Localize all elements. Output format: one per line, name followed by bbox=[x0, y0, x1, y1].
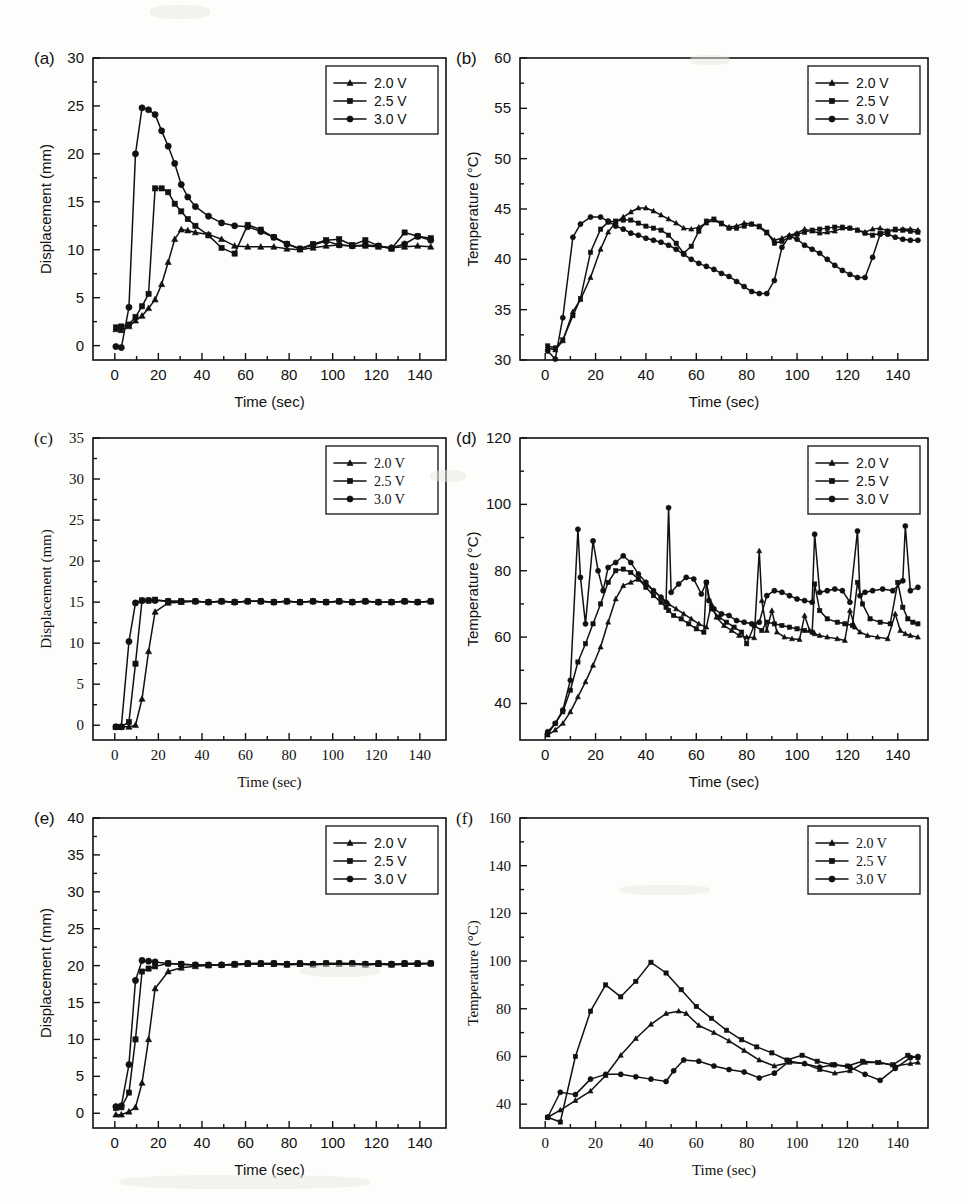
svg-text:Displacement (mm): Displacement (mm) bbox=[37, 144, 54, 274]
svg-text:2.5 V: 2.5 V bbox=[374, 853, 407, 869]
svg-text:0: 0 bbox=[77, 717, 85, 733]
svg-text:20: 20 bbox=[588, 1135, 603, 1151]
svg-text:35: 35 bbox=[67, 846, 84, 863]
svg-text:0: 0 bbox=[541, 1135, 549, 1151]
svg-text:2.0 V: 2.0 V bbox=[374, 456, 405, 471]
svg-text:15: 15 bbox=[67, 193, 84, 210]
svg-text:0: 0 bbox=[76, 1104, 84, 1121]
svg-text:2.5 V: 2.5 V bbox=[374, 93, 407, 109]
chart-panel-e: 0204060801001201400510152025303540Time (… bbox=[28, 802, 453, 1194]
svg-text:2.5 V: 2.5 V bbox=[374, 474, 405, 489]
svg-text:60: 60 bbox=[688, 746, 705, 763]
svg-text:3.0 V: 3.0 V bbox=[856, 491, 889, 507]
svg-text:Time (sec): Time (sec) bbox=[234, 1161, 304, 1178]
svg-text:40: 40 bbox=[494, 250, 511, 267]
svg-text:10: 10 bbox=[67, 241, 84, 258]
svg-text:60: 60 bbox=[237, 366, 254, 383]
series-line-25V bbox=[116, 600, 431, 727]
svg-text:40: 40 bbox=[496, 1096, 511, 1112]
svg-text:160: 160 bbox=[489, 810, 512, 826]
svg-text:Time (sec): Time (sec) bbox=[689, 393, 759, 410]
svg-text:120: 120 bbox=[836, 1135, 859, 1151]
svg-text:80: 80 bbox=[738, 366, 755, 383]
svg-text:55: 55 bbox=[494, 99, 511, 116]
svg-text:25: 25 bbox=[67, 97, 84, 114]
svg-text:20: 20 bbox=[151, 747, 166, 763]
svg-text:2.0 V: 2.0 V bbox=[856, 455, 889, 471]
svg-text:15: 15 bbox=[67, 994, 84, 1011]
svg-text:140: 140 bbox=[409, 747, 432, 763]
svg-text:0: 0 bbox=[111, 366, 119, 383]
svg-text:10: 10 bbox=[67, 1030, 84, 1047]
svg-text:80: 80 bbox=[282, 747, 297, 763]
svg-text:140: 140 bbox=[887, 1135, 910, 1151]
svg-text:100: 100 bbox=[321, 747, 344, 763]
series-line-20V bbox=[116, 963, 431, 1114]
series-line-25V bbox=[116, 188, 431, 327]
svg-text:3.0 V: 3.0 V bbox=[374, 492, 405, 507]
series-line-30V bbox=[116, 960, 431, 1106]
series-line-30V bbox=[548, 217, 918, 359]
svg-text:60: 60 bbox=[494, 628, 511, 645]
figure-canvas: 020406080100120140051015202530Time (sec)… bbox=[0, 0, 961, 1201]
svg-text:10: 10 bbox=[69, 635, 84, 651]
series-line-25V bbox=[548, 219, 918, 348]
svg-text:3.0 V: 3.0 V bbox=[374, 111, 407, 127]
svg-text:100: 100 bbox=[486, 495, 511, 512]
svg-text:25: 25 bbox=[69, 512, 84, 528]
svg-text:Displacement (mm): Displacement (mm) bbox=[37, 908, 54, 1038]
scan-artifact bbox=[150, 5, 210, 19]
svg-text:Time (sec): Time (sec) bbox=[237, 774, 301, 791]
svg-text:35: 35 bbox=[494, 301, 511, 318]
svg-text:(d): (d) bbox=[456, 429, 477, 448]
series-line-30V bbox=[116, 108, 431, 348]
svg-text:0: 0 bbox=[111, 1134, 119, 1151]
svg-text:120: 120 bbox=[364, 1134, 389, 1151]
svg-text:Displacement (mm): Displacement (mm) bbox=[38, 529, 55, 649]
svg-text:100: 100 bbox=[785, 746, 810, 763]
svg-text:2.5 V: 2.5 V bbox=[856, 473, 889, 489]
svg-text:40: 40 bbox=[194, 747, 209, 763]
series-line-30V bbox=[548, 508, 918, 732]
svg-text:40: 40 bbox=[194, 366, 211, 383]
svg-text:60: 60 bbox=[689, 1135, 704, 1151]
svg-text:Time (sec): Time (sec) bbox=[689, 773, 759, 790]
svg-text:2.0 V: 2.0 V bbox=[374, 75, 407, 91]
svg-text:Time (sec): Time (sec) bbox=[234, 393, 304, 410]
svg-text:20: 20 bbox=[67, 957, 84, 974]
svg-text:45: 45 bbox=[494, 200, 511, 217]
svg-text:Temperature (°C): Temperature (°C) bbox=[464, 151, 481, 266]
svg-text:60: 60 bbox=[496, 1048, 511, 1064]
svg-text:5: 5 bbox=[76, 289, 84, 306]
svg-text:120: 120 bbox=[365, 747, 388, 763]
svg-text:2.5 V: 2.5 V bbox=[856, 93, 889, 109]
svg-text:20: 20 bbox=[587, 746, 604, 763]
svg-text:20: 20 bbox=[150, 1134, 167, 1151]
svg-text:3.0 V: 3.0 V bbox=[856, 872, 887, 887]
svg-text:Time (sec): Time (sec) bbox=[692, 1162, 756, 1179]
svg-text:140: 140 bbox=[489, 858, 512, 874]
svg-text:(e): (e) bbox=[34, 809, 55, 828]
svg-text:(b): (b) bbox=[456, 49, 477, 68]
svg-text:0: 0 bbox=[76, 337, 84, 354]
svg-text:100: 100 bbox=[489, 953, 512, 969]
chart-panel-d: 020406080100120140406080100120Time (sec)… bbox=[450, 422, 950, 802]
svg-text:40: 40 bbox=[194, 1134, 211, 1151]
svg-text:140: 140 bbox=[885, 746, 910, 763]
svg-text:0: 0 bbox=[541, 366, 549, 383]
svg-text:100: 100 bbox=[785, 366, 810, 383]
svg-text:60: 60 bbox=[688, 366, 705, 383]
svg-text:140: 140 bbox=[407, 1134, 432, 1151]
svg-text:5: 5 bbox=[76, 1067, 84, 1084]
svg-text:2.0 V: 2.0 V bbox=[856, 75, 889, 91]
svg-text:80: 80 bbox=[281, 1134, 298, 1151]
series-line-25V bbox=[116, 963, 431, 1108]
svg-text:35: 35 bbox=[69, 430, 84, 446]
svg-text:20: 20 bbox=[69, 553, 84, 569]
svg-text:80: 80 bbox=[494, 562, 511, 579]
svg-text:120: 120 bbox=[835, 366, 860, 383]
svg-text:3.0 V: 3.0 V bbox=[374, 871, 407, 887]
series-line-20V bbox=[548, 551, 918, 735]
svg-text:2.0 V: 2.0 V bbox=[374, 835, 407, 851]
svg-text:2.5 V: 2.5 V bbox=[856, 854, 887, 869]
